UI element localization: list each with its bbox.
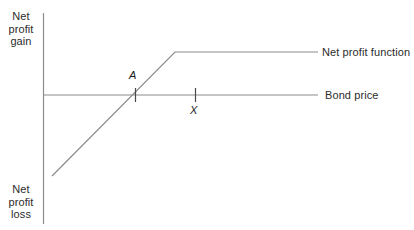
point-label-a: A	[129, 69, 136, 81]
net-profit-function-line	[52, 52, 318, 176]
chart-figure: Net profit gain Net profit loss Net prof…	[0, 0, 414, 230]
y-axis-gain-label-line3: gain	[2, 35, 40, 48]
y-axis-gain-label-line1: Net	[2, 10, 40, 23]
series-label-bond-price: Bond price	[325, 89, 379, 101]
point-label-x: X	[190, 104, 197, 116]
y-axis-loss-label-line3: loss	[2, 208, 40, 221]
y-axis-loss-label-line2: profit	[2, 196, 40, 209]
y-axis-loss-label-line1: Net	[2, 183, 40, 196]
y-axis-gain-label-line2: profit	[2, 23, 40, 36]
y-axis-loss-label: Net profit loss	[2, 183, 40, 221]
series-label-net-profit-function: Net profit function	[322, 46, 410, 58]
y-axis-gain-label: Net profit gain	[2, 10, 40, 48]
chart-canvas	[0, 0, 414, 230]
